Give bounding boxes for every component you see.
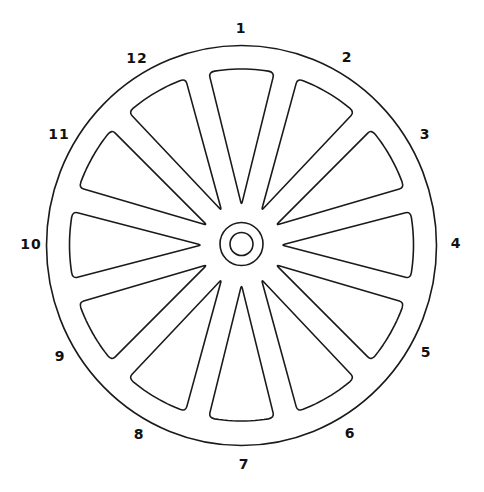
hub-inner <box>230 233 253 256</box>
label-9: 9 <box>55 348 66 364</box>
label-6: 6 <box>345 425 356 441</box>
spoke-gap-panel <box>131 80 221 209</box>
outer-rim <box>47 46 437 446</box>
label-4: 4 <box>451 235 462 251</box>
label-12: 12 <box>126 50 147 66</box>
label-3: 3 <box>420 126 431 142</box>
wheel-diagram <box>0 0 484 492</box>
label-5: 5 <box>421 344 432 360</box>
label-10: 10 <box>20 236 41 252</box>
spoke-gap-panel <box>277 132 402 225</box>
spoke-gap-panel <box>80 132 205 225</box>
label-2: 2 <box>342 49 353 65</box>
spoke-gap-panel <box>131 281 221 410</box>
spoke-gap-panel <box>210 69 274 204</box>
spoke-gap-panel <box>283 212 414 277</box>
label-8: 8 <box>134 426 145 442</box>
spoke-gap-panel <box>210 286 274 421</box>
spoke-gap-panel <box>277 266 402 359</box>
label-11: 11 <box>48 126 69 142</box>
spoke-gap-panel <box>262 80 352 209</box>
hub-outer <box>220 223 263 266</box>
label-7: 7 <box>239 456 250 472</box>
label-1: 1 <box>236 20 247 36</box>
spoke-gap-panel <box>80 266 205 359</box>
spoke-gap-panel <box>70 212 201 277</box>
spoke-panels <box>70 69 414 421</box>
spoke-gap-panel <box>262 281 352 410</box>
